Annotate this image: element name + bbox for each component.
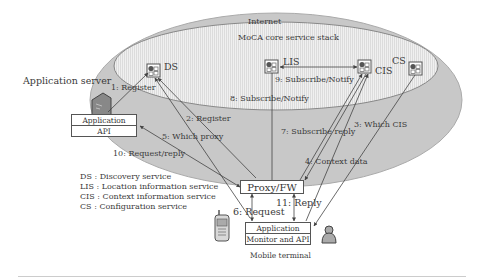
cs-label: CS: [392, 56, 406, 66]
edge-label-11: 11: Reply: [276, 198, 322, 208]
legend-item-cs: CS : Configuration service: [80, 202, 218, 212]
edge-label-2: 2: Register: [186, 115, 231, 123]
cis-service-icon: [358, 60, 371, 73]
lis-service-icon: [265, 60, 278, 73]
legend-item-lis: LIS : Location information service: [80, 182, 218, 192]
mobile-terminal-label: Mobile terminal: [250, 252, 311, 260]
ds-label: DS: [164, 62, 178, 72]
core-stack-label: MoCA core service stack: [238, 34, 339, 42]
ds-service-icon: [147, 64, 160, 77]
cs-service-icon: [409, 62, 422, 75]
internet-label: Internet: [248, 18, 281, 26]
mobile-phone-icon: [215, 210, 229, 241]
lis-label: LIS: [283, 57, 300, 67]
edge-label-9: 9: Subscribe/Notify: [275, 76, 354, 84]
app-server-api-box: API: [71, 125, 137, 137]
monitor-api-box: Monitor and API: [245, 233, 311, 245]
user-icon: [322, 226, 336, 243]
edge-label-3: 3: Which CIS: [354, 121, 407, 129]
legend-item-cis: CIS : Context information service: [80, 192, 218, 202]
edge-label-10: 10: Request/reply: [113, 150, 185, 158]
legend-item-ds: DS : Discovery service: [80, 172, 218, 182]
cis-label: CIS: [375, 66, 393, 76]
legend: DS : Discovery service LIS : Location in…: [80, 172, 218, 212]
edge-label-7: 7: Subscribe reply: [281, 128, 355, 136]
bottom-divider: [18, 276, 466, 277]
app-server-title: Application server: [23, 76, 111, 86]
proxy-fw-box: Proxy/FW: [240, 180, 304, 194]
edge-label-1: 1: Register: [111, 84, 156, 92]
edge-label-4: 4: Context data: [305, 158, 368, 166]
edge-label-6: 6: Request: [233, 207, 285, 217]
edge-label-8: 8: Subscribe/Notify: [230, 95, 309, 103]
edge-label-5: 5: Which proxy: [162, 133, 223, 141]
